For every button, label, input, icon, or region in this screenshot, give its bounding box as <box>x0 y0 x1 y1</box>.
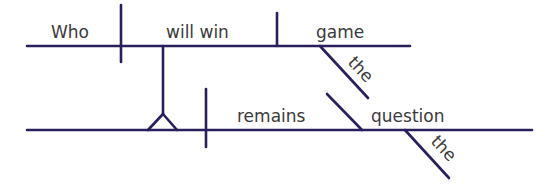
word-will-win: will win <box>166 22 229 42</box>
word-question: question <box>371 106 444 126</box>
pedestal-leg-right <box>163 114 177 130</box>
word-the-1: the <box>344 52 378 86</box>
word-game: game <box>316 22 364 42</box>
word-who: Who <box>51 22 89 42</box>
pedestal-leg-left <box>148 114 163 130</box>
main-complement-divider <box>327 94 362 130</box>
word-remains: remains <box>237 106 306 126</box>
sentence-diagram: Who will win game the remains question t… <box>0 0 550 191</box>
